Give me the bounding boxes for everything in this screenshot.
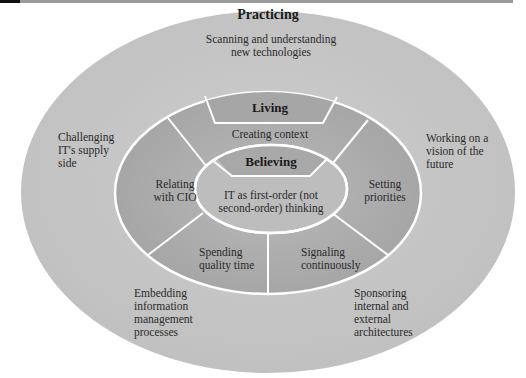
label-line: information (134, 300, 224, 313)
label-line: second-order) thinking (205, 202, 337, 215)
label-line: Signaling (301, 246, 381, 259)
practicing-left-label: Challenging IT's supply side (58, 131, 138, 170)
practicing-title: Practicing (208, 8, 328, 21)
believing-body: IT as first-order (not second-order) thi… (205, 189, 337, 215)
label-line: IT's supply (58, 144, 138, 157)
label-line: with CIO (140, 191, 210, 204)
label-line: internal and (354, 300, 454, 313)
label-line: management (134, 313, 224, 326)
label-line: Working on a (426, 132, 506, 145)
label-line: Relating (140, 178, 210, 191)
practicing-right-label: Working on a vision of the future (426, 132, 506, 171)
label-line: Setting (350, 178, 420, 191)
practicing-top-label: Scanning and understanding new technolog… (186, 33, 356, 59)
label-line: Sponsoring (354, 287, 454, 300)
label-line: Challenging (58, 131, 138, 144)
label-line: continuously (301, 259, 381, 272)
label-line: priorities (350, 191, 420, 204)
label-line: Scanning and understanding (186, 33, 356, 46)
label-line: quality time (199, 259, 269, 272)
label-line: vision of the (426, 145, 506, 158)
label-line: future (426, 158, 506, 171)
label-line: IT as first-order (not (205, 189, 337, 202)
label-line: new technologies (186, 46, 356, 59)
living-bottom-left-label: Spending quality time (199, 246, 269, 272)
label-line: side (58, 157, 138, 170)
living-bottom-right-label: Signaling continuously (301, 246, 381, 272)
label-line: Spending (199, 246, 269, 259)
living-left-label: Relating with CIO (140, 178, 210, 204)
living-right-label: Setting priorities (350, 178, 420, 204)
living-top-label: Creating context (215, 128, 325, 141)
label-line: processes (134, 326, 224, 339)
label-line: external (354, 313, 454, 326)
practicing-bottom-right-label: Sponsoring internal and external archite… (354, 287, 454, 339)
label-line: Embedding (134, 287, 224, 300)
believing-title: Believing (226, 155, 316, 168)
practicing-bottom-left-label: Embedding information management process… (134, 287, 224, 339)
living-title: Living (230, 101, 310, 114)
label-line: architectures (354, 326, 454, 339)
